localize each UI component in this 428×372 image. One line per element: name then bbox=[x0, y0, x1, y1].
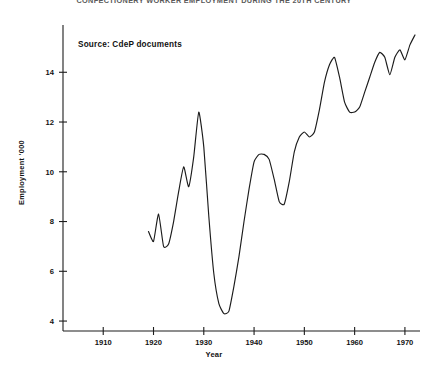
y-tick-label: 4 bbox=[50, 317, 55, 326]
x-tick-label: 1920 bbox=[145, 338, 162, 347]
x-tick-label: 1960 bbox=[346, 338, 363, 347]
y-tick-label: 10 bbox=[46, 168, 54, 177]
y-tick-label: 8 bbox=[50, 217, 54, 226]
employment-series-line bbox=[148, 35, 414, 314]
x-tick-label: 1930 bbox=[195, 338, 212, 347]
x-axis-ticks: 1910192019301940195019601970 bbox=[95, 327, 414, 347]
y-tick-label: 6 bbox=[50, 267, 54, 276]
y-tick-label: 14 bbox=[46, 68, 55, 77]
y-tick-label: 12 bbox=[46, 118, 54, 127]
x-tick-label: 1950 bbox=[296, 338, 313, 347]
x-tick-label: 1940 bbox=[246, 338, 263, 347]
y-axis-ticks: 468101214 bbox=[46, 68, 67, 326]
axis-lines bbox=[63, 25, 420, 331]
x-tick-label: 1970 bbox=[396, 338, 413, 347]
chart-figure: CONFECTIONERY WORKER EMPLOYMENT DURING T… bbox=[0, 0, 428, 372]
plot-area: 468101214 1910192019301940195019601970 bbox=[0, 0, 428, 372]
x-tick-label: 1910 bbox=[95, 338, 112, 347]
